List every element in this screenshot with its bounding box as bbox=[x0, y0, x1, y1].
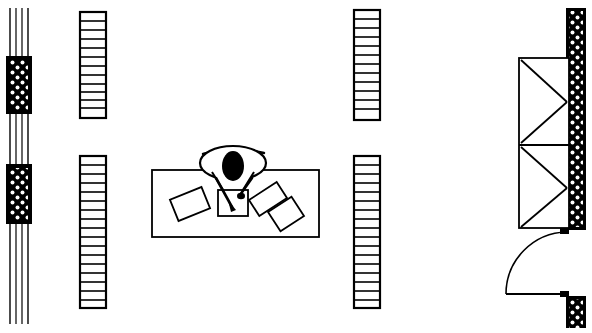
left-wall-pier-upper bbox=[6, 56, 32, 114]
occupant-hand-right bbox=[237, 193, 245, 199]
occupant-head bbox=[222, 151, 244, 181]
partition-lower-left bbox=[80, 156, 106, 308]
stair-braced-structure bbox=[519, 58, 569, 228]
floor-plan-canvas bbox=[0, 0, 592, 333]
partition-upper-right bbox=[354, 10, 380, 120]
left-wall-pier-lower bbox=[6, 164, 32, 224]
partition-lower-right bbox=[354, 156, 380, 308]
floor-plan-drawing bbox=[0, 0, 592, 333]
stair-outline bbox=[519, 58, 569, 228]
right-wall-lower bbox=[566, 296, 586, 328]
partition-upper-left bbox=[80, 12, 106, 118]
